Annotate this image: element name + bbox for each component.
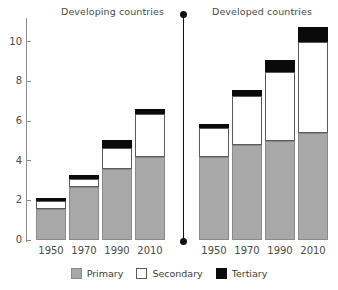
bar-segment-tertiary	[298, 27, 328, 42]
bar-segment-primary	[232, 145, 262, 240]
bar-segment-secondary	[232, 96, 262, 145]
bar-segment-secondary	[36, 201, 66, 209]
legend-item-secondary: Secondary	[136, 268, 202, 279]
legend-item-primary: Primary	[71, 268, 124, 279]
bar-developing-1950	[36, 0, 66, 240]
legend-item-tertiary: Tertiary	[216, 268, 268, 279]
bar-segment-tertiary	[102, 140, 132, 148]
legend-label-secondary: Secondary	[152, 268, 202, 279]
bar-developing-2010	[135, 0, 165, 240]
chart-legend: Primary Secondary Tertiary	[0, 268, 338, 279]
bar-segment-primary	[298, 133, 328, 240]
bar-segment-tertiary	[199, 124, 229, 128]
bar-segment-primary	[36, 209, 66, 240]
stacked-bar-chart: Developing countries Developed countries…	[0, 0, 338, 290]
bar-segment-tertiary	[135, 109, 165, 114]
bar-segment-secondary	[69, 179, 99, 188]
legend-label-tertiary: Tertiary	[232, 268, 268, 279]
bar-segment-secondary	[135, 114, 165, 157]
bar-developed-2010	[298, 0, 328, 240]
bar-segment-tertiary	[265, 60, 295, 72]
bar-developed-1970	[232, 0, 262, 240]
bar-segment-primary	[199, 157, 229, 240]
plot-area: 19501970199020101950197019902010	[0, 0, 338, 290]
legend-swatch-tertiary	[216, 268, 227, 279]
bar-segment-primary	[135, 157, 165, 240]
bar-developed-1950	[199, 0, 229, 240]
x-tick-label-developed-2010: 2010	[293, 245, 333, 256]
bar-segment-primary	[69, 187, 99, 240]
bar-segment-tertiary	[69, 175, 99, 179]
legend-swatch-primary	[71, 268, 82, 279]
bar-developing-1970	[69, 0, 99, 240]
legend-swatch-secondary	[136, 268, 147, 279]
bar-segment-secondary	[265, 72, 295, 141]
bar-segment-secondary	[199, 128, 229, 157]
bar-segment-primary	[265, 141, 295, 240]
bar-segment-secondary	[102, 148, 132, 169]
x-tick-label-developing-2010: 2010	[130, 245, 170, 256]
bar-developing-1990	[102, 0, 132, 240]
legend-label-primary: Primary	[87, 268, 124, 279]
bar-segment-tertiary	[36, 198, 66, 201]
bar-segment-primary	[102, 169, 132, 240]
bar-segment-tertiary	[232, 90, 262, 96]
bar-segment-secondary	[298, 42, 328, 133]
bar-developed-1990	[265, 0, 295, 240]
